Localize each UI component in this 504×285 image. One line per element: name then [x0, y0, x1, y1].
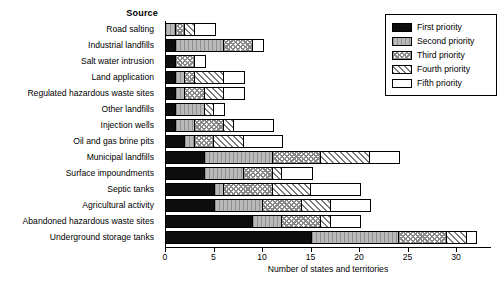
legend-item: Fifth priority	[392, 76, 490, 90]
category-label: Other landfills	[0, 101, 158, 117]
bar-segment	[224, 120, 234, 131]
legend-label: Fourth priority	[417, 64, 470, 74]
bar-segment	[331, 200, 370, 211]
stacked-bar	[165, 215, 361, 228]
bar-segment	[195, 24, 214, 35]
category-label: Surface impoundments	[0, 165, 158, 181]
legend-item: First priority	[392, 20, 490, 34]
category-label: Municipal landfills	[0, 149, 158, 165]
bar-segment	[215, 200, 264, 211]
x-tick-label: 30	[451, 252, 461, 262]
category-label: Road salting	[0, 21, 158, 37]
category-label: Underground storage tanks	[0, 229, 158, 245]
legend-swatch-icon	[392, 37, 412, 46]
stacked-bar	[165, 87, 245, 100]
bar-segment	[224, 40, 253, 51]
bar-segment	[166, 152, 205, 163]
bar-segment	[312, 232, 399, 243]
bar-segment	[176, 88, 186, 99]
stacked-bar	[165, 71, 245, 84]
bar-segment	[176, 120, 195, 131]
x-tick-label: 20	[354, 252, 364, 262]
bar-segment	[273, 168, 283, 179]
legend-label: First priority	[417, 22, 462, 32]
x-tick-label: 0	[163, 252, 168, 262]
x-tick-label: 10	[257, 252, 267, 262]
legend-label: Third priority	[417, 50, 465, 60]
legend-label: Second priority	[417, 36, 474, 46]
stacked-bar	[165, 103, 225, 116]
bar-segment	[166, 72, 176, 83]
stacked-bar	[165, 151, 400, 164]
bar-segment	[321, 216, 331, 227]
x-tick-label: 25	[403, 252, 413, 262]
bar-segment	[195, 56, 205, 67]
stacked-bar	[165, 135, 283, 148]
stacked-bar-chart: Source Road saltingIndustrial landfillsS…	[0, 0, 504, 285]
x-tick-label: 5	[211, 252, 216, 262]
bar-segment	[331, 216, 360, 227]
bar-segment	[214, 136, 243, 147]
bar-segment	[215, 184, 225, 195]
bar-row	[165, 133, 491, 149]
bar-segment	[166, 184, 215, 195]
bar-segment	[282, 168, 311, 179]
bar-segment	[166, 168, 205, 179]
bar-segment	[166, 232, 312, 243]
bar-segment	[176, 24, 186, 35]
bar-segment	[273, 184, 312, 195]
x-axis-title: Number of states and territories	[165, 264, 491, 274]
category-label: Regulated hazardous waste sites	[0, 85, 158, 101]
bar-segment	[166, 88, 176, 99]
bar-segment	[166, 200, 215, 211]
bar-segment	[166, 104, 176, 115]
bar-segment	[205, 168, 244, 179]
bar-segment	[185, 136, 195, 147]
stacked-bar	[165, 23, 216, 36]
bar-segment	[302, 200, 331, 211]
legend-item: Second priority	[392, 34, 490, 48]
bar-segment	[224, 88, 243, 99]
bar-segment	[205, 152, 273, 163]
category-label: Land application	[0, 69, 158, 85]
bar-segment	[244, 136, 283, 147]
bar-segment	[214, 104, 224, 115]
category-label: Injection wells	[0, 117, 158, 133]
bar-row	[165, 117, 491, 133]
bar-row	[165, 149, 491, 165]
bar-segment	[321, 152, 370, 163]
bar-segment	[185, 88, 204, 99]
x-axis-ticks: 051015202530	[165, 248, 491, 262]
legend-swatch-icon	[392, 51, 412, 60]
bar-segment	[166, 120, 176, 131]
bar-row	[165, 101, 491, 117]
bar-segment	[195, 72, 224, 83]
bar-segment	[467, 232, 477, 243]
bar-segment	[166, 24, 176, 35]
category-label: Oil and gas brine pits	[0, 133, 158, 149]
bar-segment	[253, 216, 282, 227]
bar-segment	[447, 232, 466, 243]
bar-row	[165, 213, 491, 229]
bar-segment	[185, 24, 195, 35]
bar-segment	[185, 72, 195, 83]
stacked-bar	[165, 231, 477, 244]
bar-segment	[224, 184, 273, 195]
legend: First prioritySecond priorityThird prior…	[385, 14, 497, 96]
category-label: Salt water intrusion	[0, 53, 158, 69]
bar-segment	[234, 120, 273, 131]
legend-label: Fifth priority	[417, 78, 462, 88]
bar-row	[165, 165, 491, 181]
bar-row	[165, 197, 491, 213]
bar-segment	[176, 40, 225, 51]
stacked-bar	[165, 119, 274, 132]
bar-segment	[176, 72, 186, 83]
bar-segment	[311, 184, 360, 195]
legend-swatch-icon	[392, 79, 412, 88]
bar-segment	[282, 216, 321, 227]
stacked-bar	[165, 167, 313, 180]
legend-item: Fourth priority	[392, 62, 490, 76]
bar-segment	[166, 40, 176, 51]
bar-segment	[224, 72, 243, 83]
bar-segment	[166, 216, 253, 227]
